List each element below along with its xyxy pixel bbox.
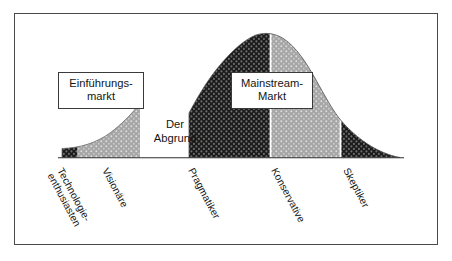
callout-einfuehrungsmarkt-line2: markt <box>66 90 136 103</box>
callout-einfuehrungsmarkt: Einführungs- markt <box>58 72 144 109</box>
label-der-abgrund: Der Abgrund <box>152 118 198 145</box>
callout-mainstream-line1: Mainstream- <box>241 77 303 89</box>
callout-mainstream-line2: Markt <box>239 90 305 103</box>
callout-einfuehrungsmarkt-line1: Einführungs- <box>69 77 132 89</box>
adoption-lifecycle-figure: Einführungs- markt Mainstream- Markt Der… <box>0 0 452 261</box>
callout-mainstream-markt: Mainstream- Markt <box>231 72 313 109</box>
segment-skeptiker <box>341 25 402 159</box>
label-der-abgrund-line2: Abgrund <box>154 132 196 144</box>
label-der-abgrund-line1: Der <box>166 118 184 130</box>
adoption-curve-plot <box>0 0 452 261</box>
